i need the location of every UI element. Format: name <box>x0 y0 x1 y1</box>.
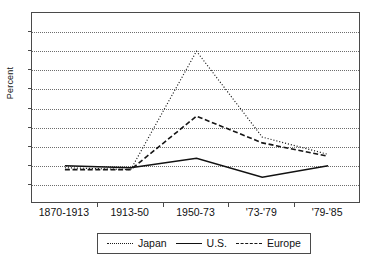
x-tick-label: '79-'85 <box>292 206 362 218</box>
series-layer <box>32 13 361 204</box>
series-line-japan <box>65 51 328 169</box>
x-tick-label: '73-'79 <box>226 206 296 218</box>
chart-legend: Japan U.S. Europe <box>97 233 311 254</box>
x-tick-mark <box>97 203 98 207</box>
legend-item-japan: Japan <box>107 237 167 249</box>
legend-swatch-europe <box>236 240 262 247</box>
x-tick-mark <box>294 203 295 207</box>
x-tick-mark <box>228 203 229 207</box>
series-line-us <box>65 158 328 177</box>
plot-area <box>31 12 360 203</box>
legend-label-japan: Japan <box>138 237 167 249</box>
legend-label-europe: Europe <box>267 237 301 249</box>
series-line-europe <box>65 116 328 169</box>
line-chart: Percent 012345678910 1870-19131913-50195… <box>0 0 370 261</box>
x-tick-label: 1950-73 <box>161 206 231 218</box>
x-tick-label: 1913-50 <box>95 206 165 218</box>
legend-swatch-us <box>176 240 202 247</box>
x-tick-label: 1870-1913 <box>29 206 99 218</box>
x-tick-mark <box>163 203 164 207</box>
legend-item-europe: Europe <box>236 237 301 249</box>
legend-item-us: U.S. <box>176 237 227 249</box>
legend-label-us: U.S. <box>207 237 227 249</box>
legend-swatch-japan <box>107 240 133 247</box>
